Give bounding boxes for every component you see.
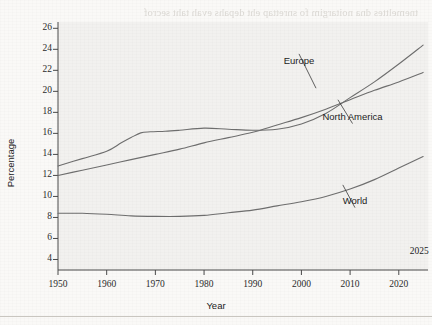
scanned-page: tnemelttes dna noitargim fo snrettap eht… bbox=[0, 0, 432, 325]
x-tick-label: 1980 bbox=[195, 279, 214, 289]
y-tick-label: 10 bbox=[28, 190, 52, 200]
y-tick-label: 16 bbox=[28, 127, 52, 137]
annotation-2025: 2025 bbox=[410, 246, 429, 256]
x-tick-label: 1950 bbox=[49, 279, 68, 289]
chart-svg bbox=[0, 0, 432, 325]
y-tick-label: 4 bbox=[28, 253, 52, 263]
x-tick-label: 2020 bbox=[389, 279, 408, 289]
y-tick-label: 14 bbox=[28, 148, 52, 158]
x-tick-label: 1970 bbox=[146, 279, 165, 289]
y-tick-label: 24 bbox=[28, 43, 52, 53]
series-label-europe: Europe bbox=[284, 55, 315, 66]
y-axis-title: Percentage bbox=[5, 139, 16, 188]
x-tick-label: 1960 bbox=[97, 279, 116, 289]
y-tick-label: 6 bbox=[28, 232, 52, 242]
y-tick-label: 8 bbox=[28, 211, 52, 221]
line-chart: Percentage Year 468101214161820222426195… bbox=[0, 0, 432, 325]
y-tick-label: 18 bbox=[28, 106, 52, 116]
x-tick-label: 1990 bbox=[243, 279, 262, 289]
y-tick-label: 26 bbox=[28, 22, 52, 32]
series-label-north-america: North America bbox=[322, 111, 382, 122]
y-tick-label: 12 bbox=[28, 169, 52, 179]
y-tick-label: 20 bbox=[28, 85, 52, 95]
series-label-world: World bbox=[343, 195, 368, 206]
x-tick-label: 2000 bbox=[292, 279, 311, 289]
x-axis-title: Year bbox=[206, 300, 225, 311]
x-tick-label: 2010 bbox=[341, 279, 360, 289]
y-tick-label: 22 bbox=[28, 64, 52, 74]
page-rule bbox=[0, 316, 432, 317]
